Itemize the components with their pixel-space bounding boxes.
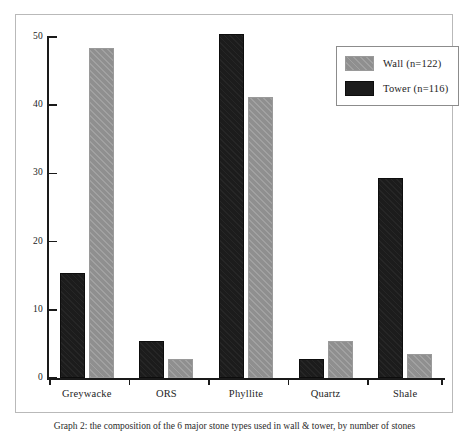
x-axis-tick bbox=[367, 378, 369, 385]
bar-wall-phyllite bbox=[248, 97, 273, 378]
figure-caption: Graph 2: the composition of the 6 major … bbox=[0, 421, 469, 431]
bar-tower-greywacke bbox=[60, 273, 85, 378]
x-axis-tick bbox=[49, 378, 51, 385]
legend-label-tower: Tower (n=116) bbox=[383, 83, 448, 94]
x-axis-tick bbox=[288, 378, 290, 385]
y-axis-tick-label: 30 bbox=[15, 167, 43, 177]
bar-tower-phyllite bbox=[219, 34, 244, 378]
legend-swatch-wall bbox=[345, 56, 374, 71]
y-axis-tick bbox=[47, 241, 57, 243]
y-axis-tick bbox=[47, 173, 57, 175]
x-axis-label-quartz: Quartz bbox=[286, 388, 366, 399]
legend-entry-wall: Wall (n=122) bbox=[345, 55, 442, 72]
x-axis-label-ors: ORS bbox=[127, 388, 207, 399]
bar-tower-shale bbox=[378, 178, 403, 379]
y-axis-tick bbox=[47, 309, 57, 311]
legend-label-wall: Wall (n=122) bbox=[383, 58, 442, 69]
y-axis-tick-label: 20 bbox=[15, 236, 43, 246]
x-axis-line bbox=[47, 378, 445, 380]
x-axis-label-phyllite: Phyllite bbox=[206, 388, 286, 399]
y-axis-line bbox=[47, 37, 49, 379]
bar-tower-ors bbox=[139, 341, 164, 379]
chart-legend: Wall (n=122) Tower (n=116) bbox=[336, 46, 459, 106]
y-axis-tick-labels: 01020304050 bbox=[13, 22, 43, 378]
legend-entry-tower: Tower (n=116) bbox=[345, 80, 448, 97]
y-axis-tick bbox=[47, 36, 57, 38]
figure-frame: 01020304050 GreywackeORSPhylliteQuartzSh… bbox=[15, 14, 453, 413]
y-axis-tick-label: 0 bbox=[15, 372, 43, 382]
y-axis-tick-label: 50 bbox=[15, 31, 43, 41]
y-axis-tick-label: 40 bbox=[15, 99, 43, 109]
bar-wall-greywacke bbox=[89, 48, 114, 378]
y-axis-tick bbox=[47, 104, 57, 106]
bar-wall-ors bbox=[168, 359, 193, 378]
y-axis-tick-label: 10 bbox=[15, 304, 43, 314]
x-axis-tick bbox=[129, 378, 131, 385]
x-axis-tick bbox=[441, 378, 443, 385]
x-axis-tick bbox=[208, 378, 210, 385]
y-axis-tick bbox=[47, 377, 57, 379]
legend-swatch-tower bbox=[345, 81, 374, 96]
bar-wall-shale bbox=[407, 354, 432, 378]
x-axis-label-greywacke: Greywacke bbox=[47, 388, 127, 399]
x-axis-label-shale: Shale bbox=[365, 388, 445, 399]
bar-tower-quartz bbox=[299, 359, 324, 378]
bar-wall-quartz bbox=[328, 341, 353, 379]
